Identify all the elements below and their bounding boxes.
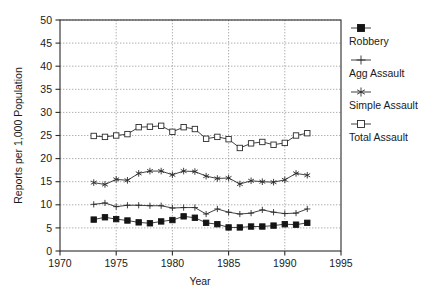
- x-tick-label: 1985: [217, 257, 241, 269]
- data-point-marker: [271, 223, 276, 228]
- y-axis-title: Reports per 1,000 Population: [12, 67, 24, 204]
- line-chart: 0 5 10 15 20 25 30 35 40 45 50 1970 1975…: [0, 0, 436, 298]
- y-tick-label: 30: [40, 106, 52, 118]
- y-tick-label: 45: [40, 37, 52, 49]
- data-point-marker: [181, 124, 186, 129]
- data-point-marker: [114, 133, 119, 138]
- data-point-marker: [271, 142, 276, 147]
- data-point-marker: [136, 124, 141, 129]
- y-tick-label: 50: [40, 14, 52, 26]
- y-tick-label: 20: [40, 152, 52, 164]
- data-point-marker: [102, 134, 107, 139]
- data-point-marker: [293, 222, 298, 227]
- data-point-marker: [237, 225, 242, 230]
- x-axis-tick-marks: [60, 251, 341, 256]
- legend-label: Simple Assault: [349, 99, 418, 111]
- legend: Robbery Agg Assault Simple Assault: [349, 25, 418, 144]
- data-point-marker: [114, 216, 119, 221]
- legend-label: Robbery: [349, 35, 389, 47]
- data-point-marker: [215, 134, 220, 139]
- legend-label: Agg Assault: [349, 67, 405, 79]
- y-tick-label: 25: [40, 129, 52, 141]
- data-point-marker: [248, 141, 253, 146]
- y-tick-label: 15: [40, 175, 52, 187]
- data-point-marker: [158, 123, 163, 128]
- y-tick-label: 40: [40, 60, 52, 72]
- y-tick-label: 35: [40, 83, 52, 95]
- data-point-marker: [170, 217, 175, 222]
- data-point-marker: [147, 221, 152, 226]
- data-point-marker: [215, 222, 220, 227]
- legend-item-agg-assault[interactable]: Agg Assault: [349, 56, 405, 80]
- data-point-marker: [170, 129, 175, 134]
- plus-icon: [357, 56, 366, 65]
- data-point-marker: [181, 214, 186, 219]
- legend-item-total-assault[interactable]: Total Assault: [349, 121, 408, 144]
- data-point-marker: [305, 130, 310, 135]
- x-tick-label: 1995: [329, 257, 353, 269]
- data-point-marker: [282, 140, 287, 145]
- chart-figure: 0 5 10 15 20 25 30 35 40 45 50 1970 1975…: [0, 0, 436, 298]
- data-point-marker: [293, 133, 298, 138]
- data-point-marker: [226, 225, 231, 230]
- data-point-marker: [91, 217, 96, 222]
- y-axis-tick-marks: [56, 20, 61, 251]
- data-point-marker: [237, 145, 242, 150]
- x-tick-label: 1975: [105, 257, 129, 269]
- open-square-icon: [358, 121, 365, 128]
- y-tick-label: 5: [46, 222, 52, 234]
- data-point-marker: [282, 222, 287, 227]
- x-tick-label: 1990: [273, 257, 297, 269]
- data-point-marker: [192, 126, 197, 131]
- legend-item-robbery[interactable]: Robbery: [349, 25, 389, 48]
- data-point-marker: [136, 220, 141, 225]
- y-tick-label: 0: [46, 245, 52, 257]
- data-point-marker: [248, 224, 253, 229]
- data-point-marker: [102, 215, 107, 220]
- y-axis-tick-labels: 0 5 10 15 20 25 30 35 40 45 50: [40, 14, 52, 257]
- data-point-marker: [203, 136, 208, 141]
- data-point-marker: [226, 136, 231, 141]
- x-tick-label: 1980: [161, 257, 185, 269]
- filled-square-icon: [358, 25, 365, 32]
- x-tick-label: 1970: [48, 257, 72, 269]
- data-point-marker: [260, 139, 265, 144]
- data-point-marker: [125, 131, 130, 136]
- data-point-marker: [91, 133, 96, 138]
- data-point-marker: [158, 219, 163, 224]
- data-point-marker: [125, 218, 130, 223]
- y-tick-label: 10: [40, 198, 52, 210]
- data-point-marker: [260, 224, 265, 229]
- data-point-marker: [305, 220, 310, 225]
- x-axis-title: Year: [189, 275, 211, 287]
- data-point-marker: [147, 124, 152, 129]
- legend-item-simple-assault[interactable]: Simple Assault: [349, 88, 418, 112]
- x-axis-tick-labels: 1970 1975 1980 1985 1990 1995: [48, 257, 353, 269]
- legend-label: Total Assault: [349, 131, 408, 143]
- data-point-marker: [192, 215, 197, 220]
- data-point-marker: [203, 220, 208, 225]
